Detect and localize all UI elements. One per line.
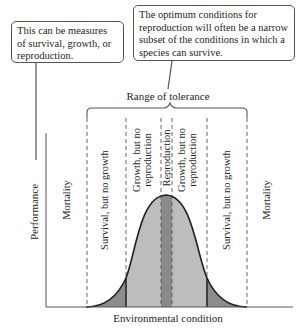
callout-right-leader [168,61,172,89]
x-axis-label: Environmental condition [113,312,223,324]
zone-growth-left-line1: Growth, but no [131,128,142,192]
range-label: Range of tolerance [126,90,209,102]
zone-growth-left-line2: reproduction [142,132,153,186]
zone-growth-right-line2: reproduction [187,132,198,186]
zone-survival-left: Survival, but no growth [99,149,110,249]
y-axis-label: Performance [28,184,40,240]
zone-mortality-right: Mortality [261,179,272,219]
range-brace [87,103,247,118]
zone-growth-right-line1: Growth, but no [176,128,187,192]
zone-survival-right: Survival, but no growth [221,149,232,249]
callout-optimum: The optimum conditions for reproduction … [133,5,295,61]
zone-mortality-left: Mortality [61,179,72,219]
callout-measures: This can be measures of survival, growth… [11,21,124,63]
zone-reproduction: Reproduction [161,129,172,187]
